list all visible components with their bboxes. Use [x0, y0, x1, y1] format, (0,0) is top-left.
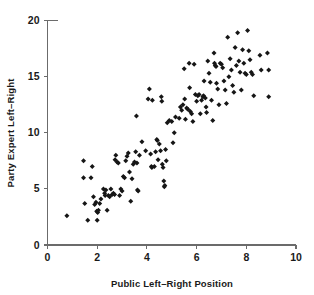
data-point — [113, 153, 118, 158]
data-point — [64, 213, 69, 218]
data-point — [192, 62, 197, 67]
plot-canvas: 051015200246810 Public Left–Right Positi… — [0, 0, 314, 295]
data-point — [240, 47, 245, 52]
data-point — [214, 81, 219, 86]
data-point — [159, 99, 164, 104]
x-tick-label-2: 2 — [94, 251, 100, 263]
data-point — [98, 196, 103, 201]
data-point — [198, 111, 203, 116]
data-point — [129, 176, 134, 181]
data-point — [90, 164, 95, 169]
x-tick-label-4: 4 — [144, 251, 150, 263]
data-point — [215, 86, 220, 91]
data-point — [148, 152, 153, 157]
data-point — [108, 186, 113, 191]
data-point — [139, 139, 144, 144]
data-point — [204, 110, 209, 115]
data-point — [265, 51, 270, 56]
data-point — [172, 130, 177, 135]
data-point — [234, 63, 239, 68]
data-point — [233, 45, 238, 50]
data-point — [170, 140, 175, 145]
data-point — [202, 79, 207, 84]
data-point — [153, 149, 158, 154]
data-point — [95, 218, 100, 223]
data-point — [97, 201, 102, 206]
data-point — [143, 148, 148, 153]
data-point — [207, 71, 212, 76]
data-point — [228, 56, 233, 61]
data-point — [259, 67, 264, 72]
data-point — [230, 83, 235, 88]
data-point — [82, 201, 87, 206]
x-tick-label-0: 0 — [45, 251, 51, 263]
data-point — [81, 175, 86, 180]
data-point — [229, 67, 234, 72]
x-axis-title: Public Left–Right Position — [111, 278, 233, 289]
data-point — [91, 194, 96, 199]
data-point — [209, 98, 214, 103]
x-tick-label-10: 10 — [290, 251, 302, 263]
y-tick-label-0: 0 — [34, 239, 40, 251]
data-point — [257, 53, 262, 58]
data-point — [134, 113, 139, 118]
data-point — [204, 104, 209, 109]
data-point — [205, 58, 210, 63]
data-point — [159, 94, 164, 99]
data-point — [123, 158, 128, 163]
y-axis-title: Party Expert Left–Right — [5, 78, 16, 188]
data-point — [182, 66, 187, 71]
data-point — [210, 118, 215, 123]
data-point — [163, 147, 168, 152]
data-point — [85, 218, 90, 223]
axis-tick-labels: 051015200246810 — [28, 14, 302, 263]
data-point — [81, 158, 86, 163]
scatter-plot-figure: 051015200246810 Public Left–Right Positi… — [0, 0, 314, 295]
data-point — [187, 85, 192, 90]
data-point — [241, 61, 246, 66]
y-tick-label-5: 5 — [34, 182, 40, 194]
data-point — [239, 88, 244, 93]
data-point — [146, 97, 151, 102]
data-point — [156, 157, 161, 162]
data-point — [211, 51, 216, 56]
x-tick-label-6: 6 — [194, 251, 200, 263]
data-point — [150, 98, 155, 103]
data-point — [226, 74, 231, 79]
data-point — [105, 208, 110, 213]
data-point — [158, 148, 163, 153]
data-point — [161, 165, 166, 170]
y-tick-label-10: 10 — [28, 126, 40, 138]
data-point — [173, 115, 178, 120]
data-point — [225, 35, 230, 40]
data-point — [208, 80, 213, 85]
data-point — [246, 48, 251, 53]
data-point — [177, 116, 182, 121]
data-point — [128, 199, 133, 204]
data-point — [231, 90, 236, 95]
data-point — [117, 193, 122, 198]
data-point — [266, 67, 271, 72]
data-point — [266, 94, 271, 99]
y-tick-label-20: 20 — [28, 14, 40, 26]
data-point — [183, 117, 188, 122]
data-point — [238, 70, 243, 75]
data-point — [190, 119, 195, 124]
x-tick-label-8: 8 — [243, 251, 249, 263]
data-point — [127, 170, 132, 175]
data-point — [248, 57, 253, 62]
data-point — [251, 93, 256, 98]
data-point — [164, 158, 169, 163]
data-point — [245, 28, 250, 33]
data-point — [161, 179, 166, 184]
data-point — [194, 99, 199, 104]
data-point — [224, 101, 229, 106]
data-point — [137, 153, 142, 158]
data-point — [236, 58, 241, 63]
data-point — [223, 88, 228, 93]
data-point — [187, 61, 192, 66]
data-points — [64, 28, 271, 223]
data-point — [235, 30, 240, 35]
y-tick-label-15: 15 — [28, 70, 40, 82]
data-point — [133, 149, 138, 154]
